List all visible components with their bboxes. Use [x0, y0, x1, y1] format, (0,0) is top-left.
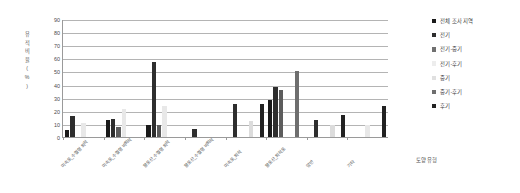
y-axis-tick-labels: 9080706050403020100 — [36, 20, 60, 138]
y-axis-title-char: 유 — [16, 30, 38, 39]
y-axis-tick-label: 50 — [38, 69, 60, 75]
y-axis-tick-label: 70 — [38, 43, 60, 49]
bar — [192, 129, 196, 137]
y-axis-title-char: 적 — [16, 39, 38, 48]
bar-group — [104, 20, 145, 137]
bar — [146, 125, 150, 137]
bar — [365, 125, 369, 137]
bar — [70, 116, 74, 137]
legend-swatch — [432, 90, 436, 94]
legend-swatch — [432, 47, 436, 51]
bar-group — [144, 20, 185, 137]
legend-label: 전기 — [440, 31, 450, 39]
y-axis-tick-label: 10 — [38, 122, 60, 128]
bar — [111, 119, 115, 137]
bar-group — [63, 20, 104, 137]
bar — [273, 87, 277, 137]
legend-swatch — [432, 76, 436, 80]
bar — [65, 130, 69, 137]
legend-label: 중기 — [440, 74, 450, 82]
bar-group — [266, 20, 307, 137]
bar — [268, 100, 272, 137]
bar — [314, 120, 318, 137]
y-axis-tick-label: 40 — [38, 83, 60, 89]
bar — [122, 109, 126, 137]
bar — [279, 90, 283, 137]
bar-group — [185, 20, 226, 137]
x-axis-tick-labels: 미숙토_수혈형 퇴적미숙토_수혈형 비퇴적황토산_수혈형 퇴적황토산_수혈형 비… — [62, 139, 388, 187]
legend-label: 전기-후기 — [440, 60, 462, 68]
bar — [116, 127, 120, 137]
legend-item: 전체 조사 지역 — [432, 14, 516, 28]
bar — [233, 104, 237, 137]
bar — [81, 123, 85, 137]
legend-label: 후기 — [440, 102, 450, 110]
y-axis-title-char: % — [16, 73, 38, 82]
bar — [152, 62, 156, 137]
y-axis-tick-label: 90 — [38, 17, 60, 23]
x-axis-tick-label: 황토산_수혈형 퇴적 — [141, 139, 171, 169]
y-axis-tick-label: 0 — [38, 135, 60, 141]
bar-chart: 유적 비율(%) 9080706050403020100 미숙토_수혈형 퇴적미… — [0, 0, 520, 193]
legend-swatch — [432, 33, 436, 37]
legend-swatch — [432, 19, 436, 23]
legend-label: 전기-중기 — [440, 45, 462, 53]
y-axis-tick-label: 60 — [38, 56, 60, 62]
y-axis-tick-label: 20 — [38, 109, 60, 115]
bar — [249, 121, 253, 137]
legend-label: 중기-후기 — [440, 88, 462, 96]
bar — [330, 125, 334, 137]
x-axis-tick-label: 기타 — [345, 159, 355, 169]
x-axis-tick-label: 황토산_수혈형 비퇴적 — [182, 136, 214, 168]
legend-item: 중기-후기 — [432, 85, 516, 99]
x-axis-tick-label: 황토산_퇴적토 — [263, 146, 286, 169]
bar — [295, 71, 299, 137]
legend-item: 전기-중기 — [432, 42, 516, 56]
chart-legend: 전체 조사 지역전기전기-중기전기-후기중기중기-후기후기 — [432, 14, 516, 113]
x-axis-title: 토양 유형 — [416, 156, 438, 164]
y-axis-title-char: ) — [16, 82, 38, 91]
x-axis-tick-label: 암반 — [304, 159, 314, 169]
x-axis-tick-label: 미숙토_퇴적 — [223, 149, 243, 169]
bar — [341, 115, 345, 137]
bar-group — [226, 20, 267, 137]
y-axis-tick-label: 80 — [38, 30, 60, 36]
plot-area — [62, 20, 388, 138]
bar — [260, 104, 264, 137]
bar — [382, 106, 386, 137]
y-axis-title-char: ( — [16, 64, 38, 73]
y-axis-title-char: 율 — [16, 56, 38, 65]
x-axis-tick-label: 미숙토_수혈형 비퇴적 — [100, 136, 132, 168]
bar-group — [347, 20, 388, 137]
legend-label: 전체 조사 지역 — [440, 17, 473, 25]
x-axis-tick-label: 미숙토_수혈형 퇴적 — [60, 139, 90, 169]
bar-group — [307, 20, 348, 137]
legend-item: 전기 — [432, 28, 516, 42]
legend-item: 중기 — [432, 71, 516, 85]
y-axis-tick-label: 30 — [38, 96, 60, 102]
bar — [106, 120, 110, 137]
y-axis-title-char: 비 — [16, 47, 38, 56]
bar — [157, 125, 161, 137]
y-axis-title: 유적 비율(%) — [16, 30, 38, 90]
legend-item: 전기-후기 — [432, 57, 516, 71]
legend-item: 후기 — [432, 99, 516, 113]
legend-swatch — [432, 104, 436, 108]
bar-groups — [63, 20, 388, 137]
bar — [162, 106, 166, 137]
legend-swatch — [432, 61, 436, 65]
